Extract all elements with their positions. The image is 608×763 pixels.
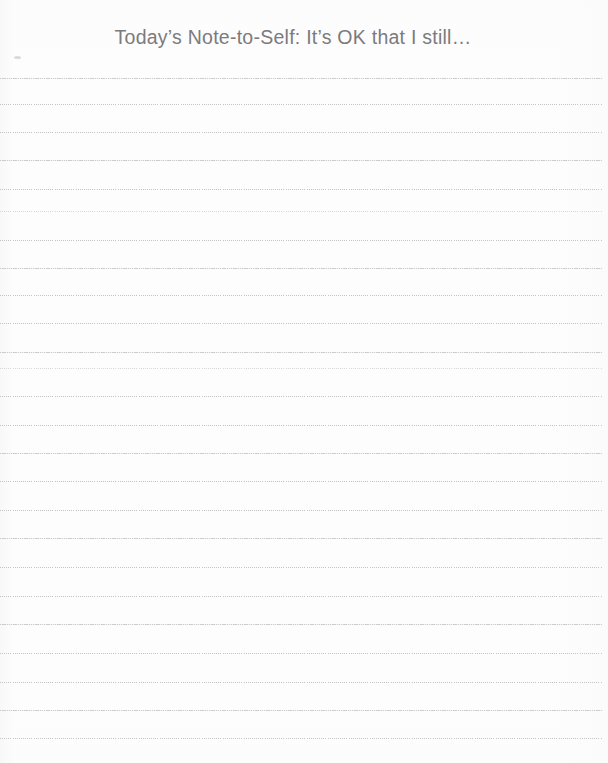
rule-line <box>0 352 602 353</box>
ruled-lines-area <box>0 0 608 763</box>
rule-line <box>0 538 602 539</box>
rule-line <box>0 211 602 212</box>
notepad-page: Today’s Note-to-Self: It’s OK that I sti… <box>0 0 608 763</box>
scan-artifact-speck <box>14 56 21 59</box>
rule-line <box>0 653 602 654</box>
rule-line <box>0 78 602 79</box>
rule-line <box>0 132 602 133</box>
rule-line <box>0 624 602 625</box>
rule-line <box>0 240 602 241</box>
rule-line <box>0 104 602 105</box>
rule-line <box>0 682 602 683</box>
rule-line <box>0 160 602 161</box>
rule-line <box>0 738 602 739</box>
rule-line <box>0 368 602 369</box>
rule-line <box>0 295 602 296</box>
rule-line <box>0 481 602 482</box>
rule-line <box>0 323 602 324</box>
rule-line <box>0 710 602 711</box>
rule-line <box>0 189 602 190</box>
rule-line <box>0 453 602 454</box>
rule-line <box>0 425 602 426</box>
rule-line <box>0 396 602 397</box>
rule-line <box>0 596 602 597</box>
rule-line <box>0 567 602 568</box>
rule-line <box>0 268 602 269</box>
rule-line <box>0 510 602 511</box>
